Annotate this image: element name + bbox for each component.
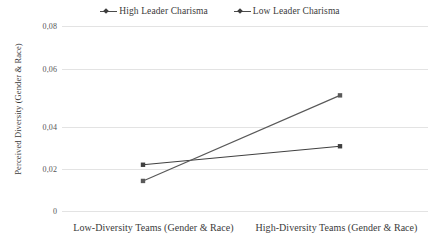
plot-area: 0,08 0,06 0,04 0,02 0 [62,20,428,215]
x-axis-category-labels: Low-Diversity Teams (Gender & Race) High… [62,222,428,233]
x-tick-label-high-diversity: High-Diversity Teams (Gender & Race) [245,222,428,233]
data-point-high-low-diversity [141,163,145,167]
data-point-low-high-diversity [338,93,342,97]
y-tick-label-0.02: 0,02 [43,165,57,174]
series-line-high-leader-charisma [143,146,340,165]
y-tick-label-0.04: 0,04 [43,123,57,132]
x-tick-label-low-diversity: Low-Diversity Teams (Gender & Race) [62,222,245,233]
legend-label-low-leader-charisma: Low Leader Charisma [253,6,340,17]
series-high-leader-charisma [141,144,342,167]
y-tick-label-0.06: 0,06 [43,65,57,74]
chart-legend: High Leader Charisma Low Leader Charisma [0,2,440,20]
series-layer [62,20,428,215]
series-line-low-leader-charisma [143,95,340,181]
y-tick-label-0: 0 [53,207,57,216]
legend-label-high-leader-charisma: High Leader Charisma [119,6,208,17]
data-point-low-low-diversity [141,179,145,183]
y-tick-label-0.08: 0,08 [43,22,57,31]
interaction-line-chart: High Leader Charisma Low Leader Charisma… [0,0,440,249]
series-low-leader-charisma [141,93,342,183]
legend-entry-high-leader-charisma[interactable]: High Leader Charisma [100,6,208,17]
legend-line-marker-icon [100,7,117,16]
data-point-high-high-diversity [338,144,342,148]
legend-line-marker-icon [234,7,251,16]
y-axis-title: Perceived Diversity (Gender & Race) [13,29,23,189]
legend-entry-low-leader-charisma[interactable]: Low Leader Charisma [234,6,340,17]
